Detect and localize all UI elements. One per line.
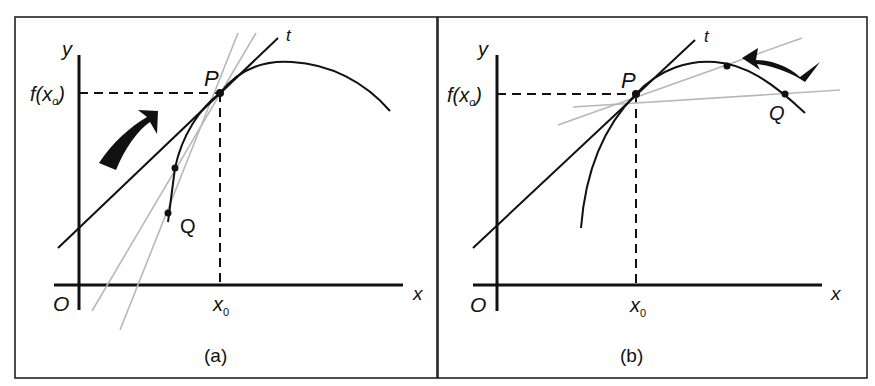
panel-a-caption: (a)	[204, 345, 227, 366]
function-curve	[581, 62, 805, 228]
panel-b-frame	[438, 17, 867, 378]
y-axis-label: y	[476, 38, 489, 60]
fx0-label: f(xo)	[447, 84, 482, 108]
point-q	[165, 210, 172, 217]
point-p-label: P	[204, 66, 219, 91]
approach-arrow-icon	[742, 48, 820, 82]
origin-label: O	[470, 293, 486, 316]
origin-label: O	[53, 292, 69, 315]
function-curve	[168, 62, 390, 222]
fx0-label: f(xo)	[30, 83, 65, 107]
x-axis-label: x	[412, 283, 424, 304]
panel-b: y x O f(xo) x0 P Q t (b)	[438, 17, 867, 378]
intermediate-point	[724, 63, 731, 70]
x0-label: x0	[629, 294, 646, 319]
tangent-limit-figure: y x O f(xo) x0 P Q t (a) y x O	[0, 0, 875, 386]
point-q	[782, 91, 789, 98]
x0-label: x0	[212, 293, 229, 318]
panel-b-caption: (b)	[620, 345, 643, 366]
x-axis-label: x	[830, 283, 842, 304]
panel-a: y x O f(xo) x0 P Q t (a)	[15, 17, 437, 378]
tangent-line-t	[473, 40, 695, 248]
y-axis-label: y	[60, 38, 73, 60]
point-p-label: P	[621, 68, 636, 93]
point-q-label: Q	[769, 102, 785, 124]
tangent-label: t	[286, 26, 292, 45]
secant-line-2	[573, 90, 840, 107]
tangent-label: t	[704, 27, 710, 46]
point-q-label: Q	[180, 215, 196, 237]
intermediate-point	[172, 165, 179, 172]
